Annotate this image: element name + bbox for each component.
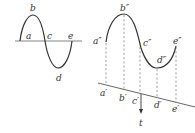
label-b-double-prime: b″ [120, 3, 130, 13]
left-sine-curve [20, 15, 72, 68]
label-c-prime: c′ [132, 96, 139, 106]
label-t: t [139, 118, 143, 128]
label-a: a [26, 31, 31, 41]
label-e: e [68, 31, 73, 41]
label-d-prime: d′ [154, 100, 162, 110]
label-d: d [56, 73, 62, 83]
label-d-double-prime: d″ [157, 55, 167, 65]
label-c-double-prime: c″ [143, 38, 152, 48]
t-arrow-head-icon [139, 109, 143, 114]
left-sine-panel: b a c e d [15, 3, 82, 83]
slanted-axis [98, 83, 195, 107]
right-projection-panel: a″ b″ c″ d″ e″ a′ b′ c′ d′ e′ t [93, 3, 195, 128]
label-a-prime: a′ [100, 88, 107, 98]
diagram-canvas: b a c e d a″ b″ c″ d″ e″ a′ b′ c′ d′ e′ [0, 0, 195, 133]
label-e-prime: e′ [172, 104, 179, 114]
label-a-double-prime: a″ [93, 36, 102, 46]
label-e-double-prime: e″ [173, 36, 182, 46]
label-c: c [47, 31, 52, 41]
label-b: b [30, 3, 36, 13]
label-b-prime: b′ [119, 93, 127, 103]
